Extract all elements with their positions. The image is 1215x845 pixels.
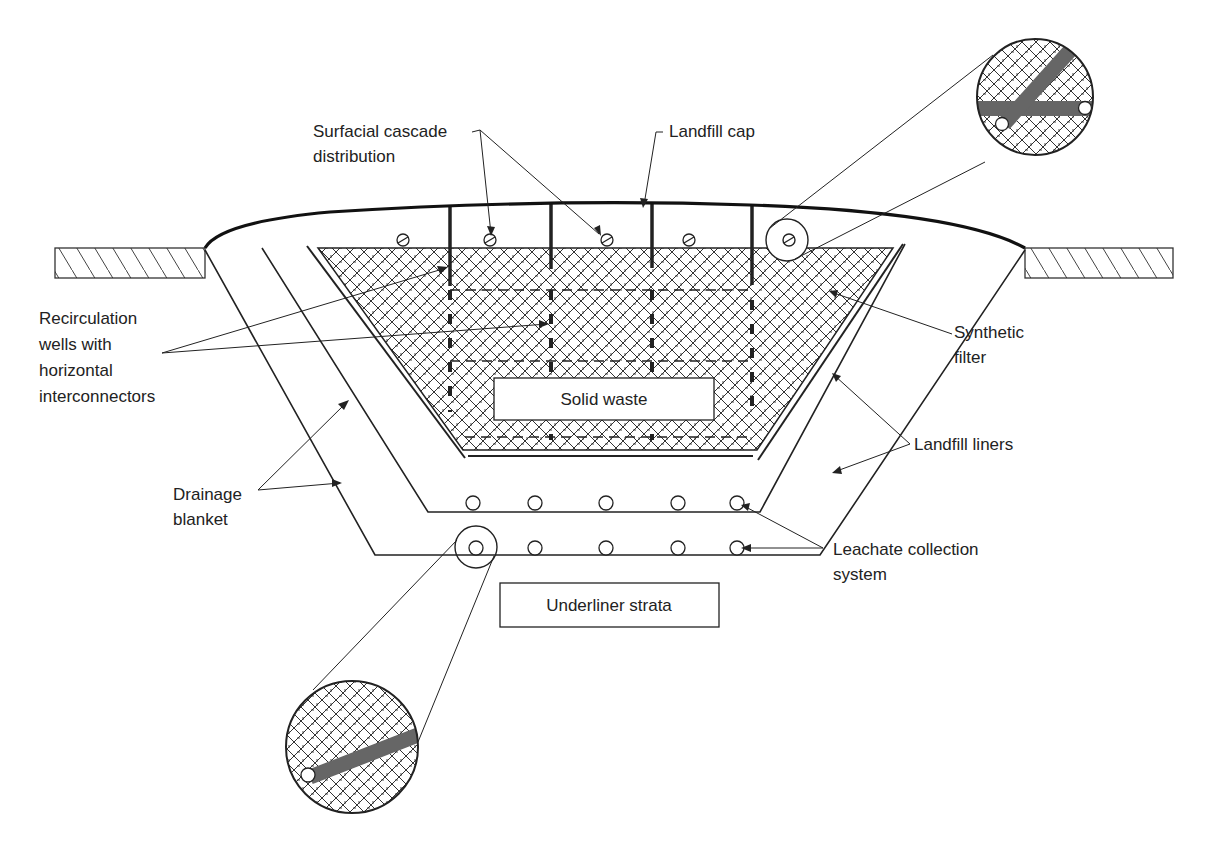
top-callout-ray-2 bbox=[795, 162, 985, 259]
synthetic-filter-label: Synthetic filter bbox=[954, 323, 1029, 367]
landfill-cap bbox=[205, 203, 1025, 248]
landfill-diagram: Solid waste bbox=[0, 0, 1215, 845]
underliner-strata-label: Underliner strata bbox=[546, 596, 672, 615]
bottom-detail-callout bbox=[280, 675, 425, 820]
top-detail-callout bbox=[970, 30, 1100, 160]
drainage-blanket-label: Drainage blanket bbox=[173, 485, 247, 529]
upper-collection-pipes bbox=[466, 496, 744, 510]
top-callout-ray-1 bbox=[770, 55, 993, 228]
lower-collection-pipes bbox=[469, 541, 744, 555]
bottom-callout-ray-2 bbox=[418, 556, 494, 742]
top-detail-source bbox=[766, 219, 808, 261]
landfill-liners-label: Landfill liners bbox=[914, 435, 1013, 454]
ground-left bbox=[55, 248, 205, 278]
surfacial-cascade-label: Surfacial cascade distribution bbox=[313, 122, 452, 166]
recirculation-wells-label: Recirculation wells with horizontal inte… bbox=[38, 309, 155, 406]
landfill-cap-label: Landfill cap bbox=[669, 122, 755, 141]
leachate-collection-label: Leachate collection system bbox=[833, 540, 983, 584]
ground-right bbox=[1025, 248, 1173, 278]
bottom-callout-ray-1 bbox=[313, 540, 457, 690]
solid-waste-label: Solid waste bbox=[561, 390, 648, 409]
